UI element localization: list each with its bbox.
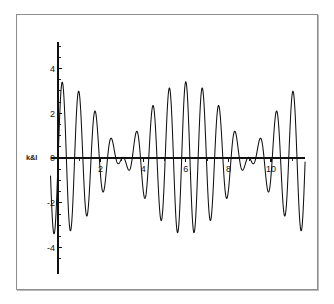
y-tick-label: 4 <box>50 64 55 74</box>
figure-root: 246810-4-2024 k&l <box>0 0 334 304</box>
plot-frame: 246810-4-2024 k&l <box>16 14 318 290</box>
y-tick-label: 2 <box>50 109 55 119</box>
y-axis-label: k&l <box>26 154 37 162</box>
axes-group <box>51 42 306 275</box>
y-tick-label: 0 <box>50 153 55 163</box>
y-tick-label: -4 <box>47 243 55 253</box>
x-tick-label: 6 <box>183 164 188 174</box>
plot-canvas: 246810-4-2024 <box>17 15 319 291</box>
